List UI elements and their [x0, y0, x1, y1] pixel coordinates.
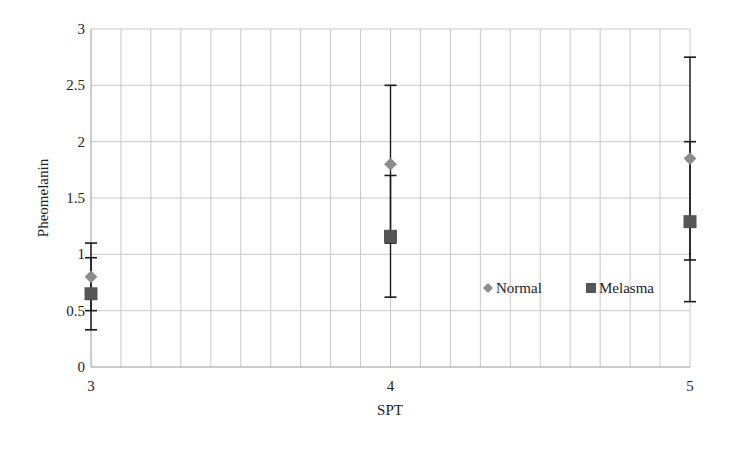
legend-label: Normal [496, 280, 542, 296]
legend-item-melasma: Melasma [586, 280, 654, 296]
square-data-point [85, 287, 98, 300]
square-data-point [384, 230, 397, 243]
square-marker-icon [586, 283, 596, 293]
y-tick-label: 0 [78, 359, 86, 375]
y-axis-ticks: 00.511.522.53 [66, 21, 85, 375]
y-tick-label: 1 [78, 246, 86, 262]
x-axis-ticks: 345 [87, 378, 694, 394]
y-tick-label: 1.5 [66, 190, 85, 206]
y-tick-label: 2 [78, 134, 86, 150]
chart: 00.511.522.53 345 SPT Pheomelanin Normal… [0, 0, 729, 450]
y-tick-label: 0.5 [66, 303, 85, 319]
diamond-data-point [85, 271, 98, 284]
x-tick-label: 5 [686, 378, 694, 394]
legend-item-normal: Normal [483, 280, 542, 296]
legend-label: Melasma [599, 280, 654, 296]
square-data-point [684, 215, 697, 228]
x-tick-label: 4 [387, 378, 395, 394]
y-tick-label: 2.5 [66, 77, 85, 93]
diamond-data-point [384, 158, 397, 171]
x-tick-label: 3 [87, 378, 95, 394]
legend: Normal Melasma [483, 280, 654, 296]
x-axis-label: SPT [377, 402, 403, 418]
diamond-data-point [684, 152, 697, 165]
y-axis-label: Pheomelanin [35, 158, 51, 237]
y-tick-label: 3 [78, 21, 86, 37]
diamond-marker-icon [483, 283, 493, 293]
